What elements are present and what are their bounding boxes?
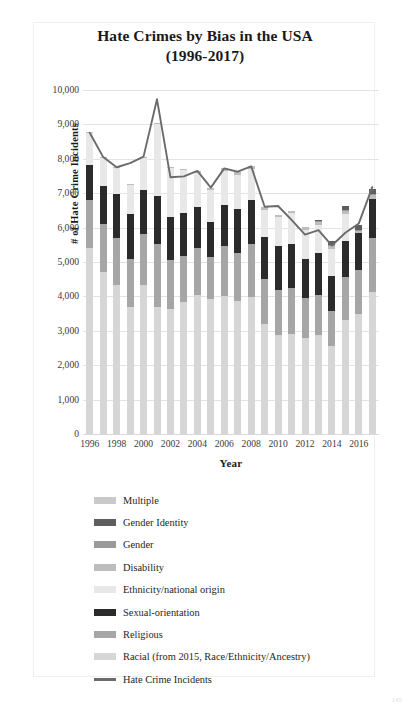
bar-segment: [127, 184, 134, 185]
legend-swatch-icon: [94, 678, 116, 681]
legend-item-2[interactable]: Gender: [94, 534, 374, 556]
legend-item-8[interactable]: Hate Crime Incidents: [94, 668, 374, 690]
legend-label: Ethnicity/national origin: [123, 584, 225, 595]
y-tick-4000: 4,000: [33, 291, 79, 301]
bar-segment: [261, 237, 268, 279]
bar-2014: [328, 90, 335, 434]
bar-segment: [221, 168, 228, 171]
chart-title-line2: (1996-2017): [40, 46, 370, 66]
legend-item-7[interactable]: Racial (from 2015, Race/Ethnicity/Ancest…: [94, 646, 374, 668]
plot-area: [83, 90, 379, 434]
legend-label: Hate Crime Incidents: [123, 674, 212, 685]
bar-segment: [328, 276, 335, 311]
bar-segment: [302, 230, 309, 258]
bar-2013: [315, 90, 322, 434]
bar-segment: [127, 307, 134, 434]
legend-label: Religious: [123, 629, 163, 640]
legend-item-5[interactable]: Sexual-orientation: [94, 601, 374, 623]
bar-segment: [369, 195, 376, 199]
bar-segment: [275, 217, 282, 246]
bar-segment: [261, 207, 268, 210]
bar-segment: [355, 231, 362, 233]
x-tick-2016: 2016: [342, 438, 376, 449]
bar-segment: [113, 167, 120, 168]
bar-2010: [275, 90, 282, 434]
bar-segment: [328, 311, 335, 346]
bar-segment: [248, 297, 255, 434]
chart-title-line1: Hate Crimes by Bias in the USA: [97, 27, 313, 44]
bar-segment: [194, 207, 201, 248]
y-tick-6000: 6,000: [33, 223, 79, 233]
bar-2006: [221, 90, 228, 434]
legend-label: Racial (from 2015, Race/Ethnicity/Ancest…: [123, 651, 310, 662]
bar-segment: [113, 285, 120, 434]
bar-segment: [261, 279, 268, 324]
bar-segment: [275, 215, 282, 217]
bar-segment: [140, 158, 147, 189]
bar-segment: [355, 230, 362, 231]
legend-label: Sexual-orientation: [123, 607, 200, 618]
bar-segment: [355, 314, 362, 434]
legend-swatch-icon: [94, 564, 116, 571]
legend-item-1[interactable]: Gender Identity: [94, 511, 374, 533]
bar-segment: [86, 248, 93, 434]
bar-segment: [342, 214, 349, 241]
legend-swatch-icon: [94, 609, 116, 616]
bar-segment: [234, 209, 241, 253]
bar-segment: [315, 335, 322, 434]
bar-segment: [113, 194, 120, 237]
bar-segment: [234, 253, 241, 301]
bar-segment: [328, 249, 335, 276]
bar-segment: [221, 171, 228, 205]
bar-segment: [86, 165, 93, 200]
bar-segment: [167, 168, 174, 216]
legend-swatch-icon: [94, 586, 116, 593]
legend-item-3[interactable]: Disability: [94, 556, 374, 578]
bar-segment: [248, 166, 255, 169]
bar-2004: [194, 90, 201, 434]
bar-segment: [127, 259, 134, 308]
page-number: 145: [392, 696, 403, 704]
bar-2017: [369, 90, 376, 434]
legend-item-4[interactable]: Ethnicity/national origin: [94, 579, 374, 601]
stacked-bars: [83, 90, 379, 434]
legend-swatch-icon: [94, 519, 116, 526]
bar-segment: [167, 167, 174, 169]
bar-segment: [342, 320, 349, 434]
bar-segment: [86, 133, 93, 165]
bar-segment: [369, 194, 376, 196]
bar-segment: [248, 200, 255, 245]
bar-segment: [369, 189, 376, 194]
bar-segment: [154, 244, 161, 307]
bar-segment: [369, 238, 376, 292]
bar-segment: [180, 169, 187, 170]
bar-segment: [302, 298, 309, 338]
bar-1998: [113, 90, 120, 434]
bar-segment: [369, 292, 376, 434]
bar-segment: [221, 246, 228, 296]
legend-item-6[interactable]: Religious: [94, 623, 374, 645]
y-tick-8000: 8,000: [33, 154, 79, 164]
bar-segment: [180, 302, 187, 434]
bar-segment: [100, 186, 107, 224]
bar-segment: [207, 257, 214, 299]
x-axis-title: Year: [83, 457, 379, 469]
legend-item-0[interactable]: Multiple: [94, 489, 374, 511]
bar-2001: [154, 90, 161, 434]
gridline-0: [83, 434, 379, 435]
bar-1996: [86, 90, 93, 434]
bar-2005: [207, 90, 214, 434]
legend-label: Gender: [123, 539, 154, 550]
x-axis-tick-labels: 1996199820002002200420062008201020122014…: [83, 438, 379, 452]
legend-swatch-icon: [94, 541, 116, 548]
bar-segment: [221, 296, 228, 434]
bar-segment: [315, 295, 322, 335]
chart-page: Hate Crimes by Bias in the USA (1996-201…: [0, 0, 409, 708]
y-tick-3000: 3,000: [33, 326, 79, 336]
chart-title: Hate Crimes by Bias in the USA (1996-201…: [40, 26, 370, 66]
bar-1997: [100, 90, 107, 434]
bar-segment: [100, 157, 107, 158]
legend-label: Gender Identity: [123, 517, 189, 528]
bar-segment: [328, 346, 335, 434]
bar-1999: [127, 90, 134, 434]
